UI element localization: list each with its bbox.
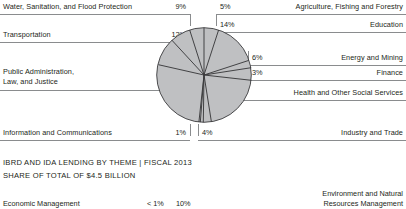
chart-subtitle: SHARE OF TOTAL OF $4.5 BILLION xyxy=(3,171,136,181)
row-finance: 3% Finance xyxy=(248,66,406,81)
row-percent: 9% xyxy=(175,2,186,11)
footer-economic-management-percent: < 1% xyxy=(147,199,164,209)
row-divider xyxy=(248,80,406,81)
footer-environment-percent: 10% xyxy=(176,199,191,209)
row-divider xyxy=(198,140,406,141)
row-label: Finance xyxy=(377,68,403,77)
row-label: Agriculture, Fishing and Forestry xyxy=(296,2,403,11)
leader-tick-water xyxy=(190,14,191,26)
row-information-communications: Information and Communications 1% xyxy=(0,126,190,141)
leader-tick-information xyxy=(190,124,191,136)
row-label: Industry and Trade xyxy=(341,128,403,137)
infographic-root: Water, Sanitation, and Flood Protection … xyxy=(0,0,406,209)
row-label: Information and Communications xyxy=(3,128,112,137)
row-percent: 6% xyxy=(252,53,263,62)
row-label: Energy and Mining xyxy=(341,53,403,62)
footer-economic-management-label: Economic Management xyxy=(3,199,80,209)
row-label: Health and Other Social Services xyxy=(294,88,403,97)
row-divider xyxy=(216,14,406,15)
row-label: Transportation xyxy=(3,30,51,39)
footer-environment-label-line2: Resources Management xyxy=(324,199,404,209)
row-energy-mining: 6% Energy and Mining xyxy=(248,51,406,66)
row-label-line1: Public Administration, xyxy=(3,67,74,76)
row-label: Education xyxy=(370,20,403,29)
pie-chart xyxy=(156,27,252,123)
row-percent: 5% xyxy=(220,2,231,11)
row-label: Water, Sanitation, and Flood Protection xyxy=(3,2,132,11)
row-industry-trade: 4% Industry and Trade xyxy=(198,126,406,141)
row-percent: 4% xyxy=(202,128,213,137)
row-percent: 3% xyxy=(252,68,263,77)
row-divider xyxy=(0,140,190,141)
row-percent: 1% xyxy=(175,128,186,137)
row-agriculture: 5% Agriculture, Fishing and Forestry xyxy=(216,0,406,15)
leader-tick-industry xyxy=(198,124,199,136)
row-divider xyxy=(0,14,190,15)
row-water-sanitation: Water, Sanitation, and Flood Protection … xyxy=(0,0,190,15)
row-label-line2: Law, and Justice xyxy=(3,77,58,86)
leader-tick-agriculture xyxy=(216,14,217,26)
pie-chart-svg xyxy=(156,27,252,123)
footer-environment-label-line1: Environment and Natural xyxy=(322,189,403,199)
chart-title: IBRD AND IDA LENDING BY THEME | FISCAL 2… xyxy=(3,158,192,168)
